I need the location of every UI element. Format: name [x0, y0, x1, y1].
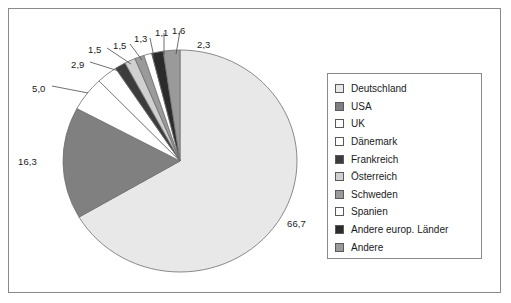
legend-item[interactable]: Deutschland [335, 80, 481, 98]
label-leader-line [52, 86, 88, 93]
legend-item[interactable]: UK [335, 115, 481, 133]
legend-color-swatch [335, 172, 344, 181]
legend-item-label: Dänemark [351, 136, 397, 147]
pie-chart-figure: 66,716,35,02,91,51,51,31,11,62,3 Deutsch… [0, 0, 511, 303]
pie-slice-value-label: 1,5 [113, 40, 127, 51]
legend-item-label: Deutschland [351, 83, 407, 94]
legend-item-label: Frankreich [351, 154, 398, 165]
pie-slice-value-label: 1,1 [155, 27, 169, 38]
pie-plot-area: 66,716,35,02,91,51,51,31,11,62,3 [0, 0, 330, 303]
legend-color-swatch [335, 102, 344, 111]
legend-color-swatch [335, 155, 344, 164]
legend-color-swatch [335, 243, 344, 252]
pie-slice-value-label: 5,0 [32, 83, 46, 94]
legend-color-swatch [335, 190, 344, 199]
legend-item[interactable]: Schweden [335, 186, 481, 204]
legend-item[interactable]: Andere [335, 238, 481, 256]
pie-slice-value-label: 1,5 [88, 44, 102, 55]
pie-slice-value-label: 1,3 [134, 33, 148, 44]
pie-slices-group [63, 50, 297, 272]
pie-svg [0, 0, 330, 303]
legend-items-list: DeutschlandUSAUKDänemarkFrankreichÖsterr… [335, 80, 481, 256]
legend-item[interactable]: Dänemark [335, 133, 481, 151]
legend-item-label: USA [351, 101, 372, 112]
legend-item-label: Spanien [351, 206, 388, 217]
legend-item-label: Österreich [351, 171, 397, 182]
pie-slice-value-label: 16,3 [18, 156, 37, 167]
pie-slice-value-label: 1,6 [172, 25, 186, 36]
chart-legend: DeutschlandUSAUKDänemarkFrankreichÖsterr… [327, 73, 482, 259]
pie-slice-value-label: 2,9 [71, 59, 85, 70]
legend-item[interactable]: Andere europ. Länder [335, 221, 481, 239]
legend-item[interactable]: USA [335, 98, 481, 116]
legend-color-swatch [335, 84, 344, 93]
legend-color-swatch [335, 225, 344, 234]
label-leader-line [130, 44, 142, 60]
legend-color-swatch [335, 207, 344, 216]
legend-item[interactable]: Österreich [335, 168, 481, 186]
pie-slice-value-label: 2,3 [197, 39, 211, 50]
legend-item-label: Andere europ. Länder [351, 224, 448, 235]
legend-item-label: Schweden [351, 189, 398, 200]
legend-item[interactable]: Spanien [335, 203, 481, 221]
legend-color-swatch [335, 137, 344, 146]
pie-slice-value-label: 66,7 [287, 218, 306, 229]
legend-color-swatch [335, 119, 344, 128]
legend-item-label: Andere [351, 242, 383, 253]
legend-item-label: UK [351, 118, 365, 129]
legend-item[interactable]: Frankreich [335, 150, 481, 168]
